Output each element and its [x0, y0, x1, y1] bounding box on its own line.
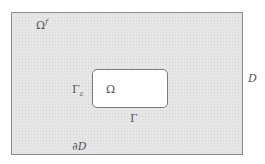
obstacle-omega-rounded-rectangle	[92, 69, 168, 108]
label-D: D	[248, 73, 257, 84]
label-gamma: Γ	[130, 113, 138, 124]
label-omega-f: Ωf	[36, 19, 48, 31]
label-omega: Ω	[106, 84, 115, 95]
label-boundary-D: ∂D	[72, 141, 87, 152]
label-gamma-epsilon: Γε	[72, 84, 83, 98]
